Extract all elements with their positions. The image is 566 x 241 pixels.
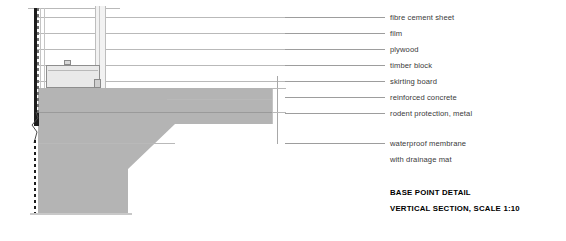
label-fibre-cement-sheet: fibre cement sheet	[390, 13, 454, 22]
label-skirting-board: skirting board	[390, 77, 437, 86]
label-drainage-mat: with drainage mat	[390, 155, 452, 164]
label-rodent-protection: rodent protection, metal	[390, 109, 472, 118]
label-reinforced-concrete: reinforced concrete	[390, 93, 457, 102]
label-plywood: plywood	[390, 45, 419, 54]
label-waterproof-membrane: waterproof membrane	[390, 139, 466, 148]
drawing-title: BASE POINT DETAIL	[390, 188, 471, 198]
detail-drawing-page: fibre cement sheet film plywood timber b…	[0, 0, 566, 241]
label-timber-block: timber block	[390, 61, 432, 70]
drawing-subtitle: VERTICAL SECTION, SCALE 1:10	[390, 204, 520, 214]
annotation-labels: fibre cement sheet film plywood timber b…	[0, 0, 566, 241]
label-film: film	[390, 29, 402, 38]
